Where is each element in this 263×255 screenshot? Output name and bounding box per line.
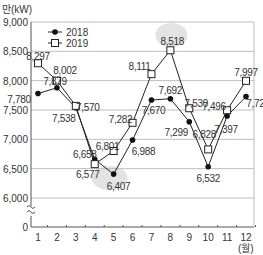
data-label-2019: 6,577 [76,169,100,180]
legend-label: 2018 [66,27,89,38]
x-tick-label: 3 [73,232,79,243]
marker-open-square [167,47,174,54]
marker-filled-circle [35,91,41,97]
y-tick-label: 6,000 [3,193,28,204]
data-label-2018: 7,397 [214,124,238,135]
x-tick-label: 6 [130,232,136,243]
marker-filled-circle [111,171,117,177]
marker-filled-circle [186,119,192,125]
data-label-2018: 7,538 [52,113,76,124]
marker-open-square [243,77,250,84]
x-tick-label: 12 [240,232,252,243]
data-label-2018: 7,879 [43,76,67,87]
x-tick-label: 7 [149,232,155,243]
y-tick-label: 0 [22,222,28,233]
y-tick-label: 8,000 [3,76,28,87]
x-tick-label: 1 [35,232,41,243]
marker-filled-circle [205,164,211,170]
data-label-2018: 6,532 [196,173,220,184]
x-tick-label: 11 [222,232,233,243]
x-tick-label: 4 [92,232,98,243]
data-label-2018: 7,670 [142,105,166,116]
y-tick-label: 6,500 [3,164,28,175]
marker-filled-circle [130,137,136,143]
data-label-2019: 6,828 [192,129,216,140]
data-label-2018: 7,780 [7,94,31,105]
line-chart: 9,0008,5008,0007,5007,0006,5006,0000 123… [0,0,263,255]
legend-marker-open-square [52,40,59,47]
marker-open-square [205,146,212,153]
data-label-2018: 7,299 [165,127,189,138]
data-label-2019: 8,002 [53,65,77,76]
y-tick-label: 7,000 [3,134,28,145]
legend: 20182019 [48,27,89,49]
data-label-2019: 7,496 [202,101,226,112]
y-tick-label: 9,000 [3,17,28,28]
data-label-2018: 7,728 [246,98,263,109]
marker-filled-circle [168,96,174,102]
legend-marker-filled-circle [52,29,58,35]
y-axis-unit-label: 만(kW) [2,4,32,15]
data-label-2019: 7,997 [234,67,258,78]
marker-filled-circle [149,97,155,103]
data-label-2019: 8,297 [26,51,50,62]
data-label-2019: 7,570 [76,102,100,113]
data-label-2019: 6,801 [96,141,120,152]
data-label-2019: 7,282 [109,114,133,125]
marker-open-square [91,161,98,168]
x-axis-unit-label: (월) [238,243,254,254]
axis-break-icon [27,206,35,214]
data-label-2019: 8,518 [161,36,185,47]
y-tick-label: 7,500 [3,105,28,116]
legend-label: 2019 [66,38,89,49]
data-label-2018: 7,692 [159,85,183,96]
x-tick-label: 2 [54,232,60,243]
y-tick-label: 8,500 [3,46,28,57]
x-tick-label: 5 [111,232,117,243]
x-axis-tick-labels: 123456789101112 [35,232,252,243]
data-label-2019: 8,111 [128,61,151,72]
x-tick-label: 10 [203,232,215,243]
y-axis-tick-labels: 9,0008,5008,0007,5007,0006,5006,0000 [3,17,28,233]
x-tick-label: 8 [168,232,174,243]
data-label-2018: 6,658 [73,149,97,160]
data-label-2018: 6,407 [107,181,131,192]
data-label-2018: 6,988 [132,146,156,157]
x-tick-label: 9 [186,232,192,243]
